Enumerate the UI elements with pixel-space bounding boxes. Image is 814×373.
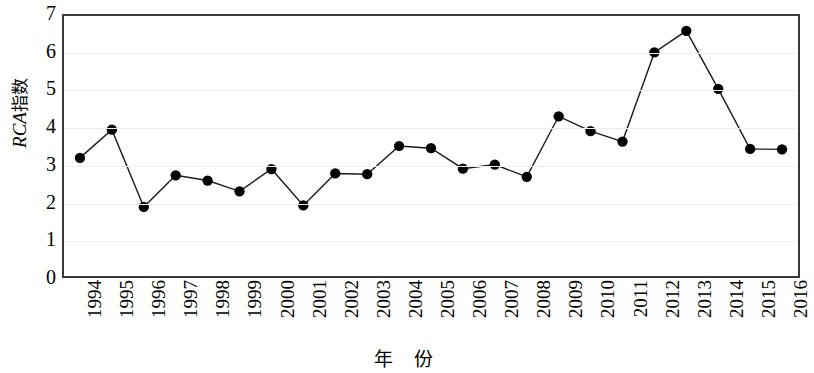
gridline bbox=[64, 241, 798, 242]
y-axis-tick-label: 5 bbox=[22, 78, 56, 98]
x-axis-tick-label: 2012 bbox=[664, 280, 682, 340]
series-polyline bbox=[80, 31, 782, 207]
x-axis-tick-label: 2000 bbox=[279, 280, 297, 340]
y-axis-tick-label: 2 bbox=[22, 192, 56, 212]
x-axis-tick-label: 2010 bbox=[599, 280, 617, 340]
y-axis-tick-label: 3 bbox=[22, 154, 56, 174]
x-axis-tick-label: 2001 bbox=[311, 280, 329, 340]
data-point bbox=[107, 125, 117, 135]
data-series-line bbox=[64, 16, 798, 276]
data-point bbox=[713, 84, 723, 94]
data-point bbox=[777, 144, 787, 154]
y-axis-tick-label: 0 bbox=[22, 267, 56, 287]
data-point bbox=[362, 169, 372, 179]
data-point bbox=[553, 111, 563, 121]
x-axis-tick-label: 2006 bbox=[471, 280, 489, 340]
data-point bbox=[75, 153, 85, 163]
plot-area bbox=[62, 14, 800, 278]
x-axis-tick-label: 2002 bbox=[343, 280, 361, 340]
data-point bbox=[394, 141, 404, 151]
gridline bbox=[64, 166, 798, 167]
data-point bbox=[745, 144, 755, 154]
data-point bbox=[234, 186, 244, 196]
data-point bbox=[298, 200, 308, 210]
data-point bbox=[171, 170, 181, 180]
x-axis-tick-label: 2016 bbox=[792, 280, 810, 340]
data-point bbox=[330, 168, 340, 178]
x-axis-tick-label: 1997 bbox=[182, 280, 200, 340]
x-axis-tick-label: 2013 bbox=[696, 280, 714, 340]
x-axis-tick-label: 1996 bbox=[150, 280, 168, 340]
x-axis-tick-label: 2015 bbox=[760, 280, 778, 340]
x-axis-tick-label: 2003 bbox=[375, 280, 393, 340]
x-axis-tick-label: 1994 bbox=[86, 280, 104, 340]
x-axis-tick-label: 1999 bbox=[246, 280, 264, 340]
y-axis-tick-label: 1 bbox=[22, 229, 56, 249]
x-axis-tick-label: 1998 bbox=[214, 280, 232, 340]
x-axis-tick-label: 2005 bbox=[439, 280, 457, 340]
x-axis-tick-labels: 1994199519961997199819992000200120022003… bbox=[62, 278, 800, 338]
data-point bbox=[681, 26, 691, 36]
x-axis-tick-label: 2004 bbox=[407, 280, 425, 340]
x-axis-tick-label: 2008 bbox=[535, 280, 553, 340]
chart-root: RCA指数 76543210 1994199519961997199819992… bbox=[0, 0, 814, 373]
x-axis-tick-label: 1995 bbox=[118, 280, 136, 340]
y-axis-tick-label: 4 bbox=[22, 116, 56, 136]
gridline bbox=[64, 128, 798, 129]
gridline bbox=[64, 204, 798, 205]
data-point bbox=[490, 159, 500, 169]
x-axis-tick-label: 2009 bbox=[567, 280, 585, 340]
x-axis-tick-label: 2007 bbox=[503, 280, 521, 340]
y-axis-tick-labels: 76543210 bbox=[20, 0, 56, 373]
y-axis-tick-label: 6 bbox=[22, 41, 56, 61]
y-axis-tick-label: 7 bbox=[22, 3, 56, 23]
data-point bbox=[202, 175, 212, 185]
data-point bbox=[426, 143, 436, 153]
x-axis-tick-label: 2011 bbox=[632, 280, 650, 340]
x-axis-tick-label: 2014 bbox=[728, 280, 746, 340]
data-point bbox=[617, 136, 627, 146]
x-axis-title: 年 份 bbox=[0, 344, 814, 371]
gridline bbox=[64, 90, 798, 91]
gridline bbox=[64, 53, 798, 54]
data-point bbox=[522, 172, 532, 182]
